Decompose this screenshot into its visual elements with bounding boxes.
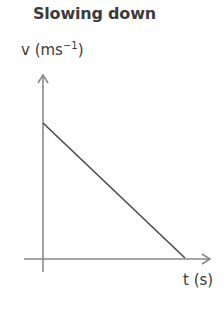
x-axis-label: t (s) — [183, 271, 213, 289]
velocity-time-plot — [0, 0, 224, 309]
velocity-line — [43, 123, 185, 258]
